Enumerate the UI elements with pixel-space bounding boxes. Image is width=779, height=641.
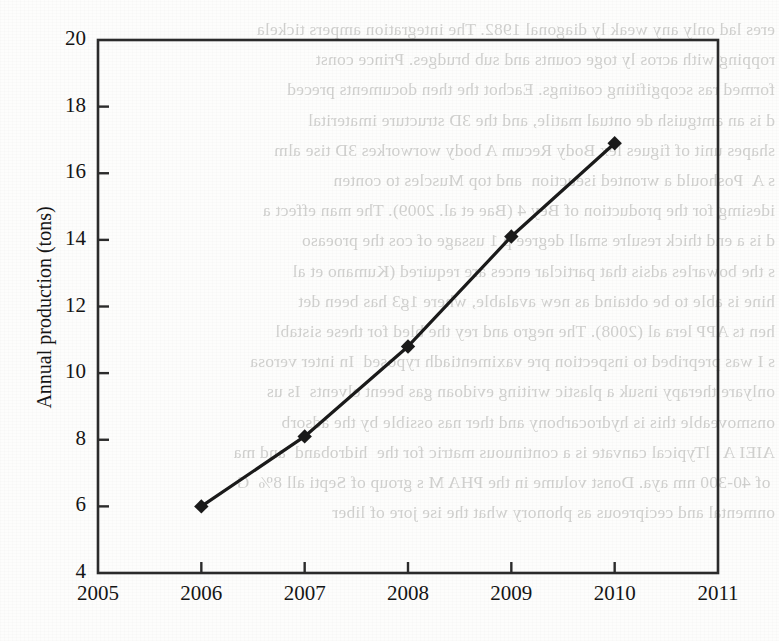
x-tick-label: 2009 [466, 581, 556, 606]
plot-frame [98, 40, 718, 573]
x-tick-label: 2006 [156, 581, 246, 606]
y-axis-ticks [98, 107, 109, 507]
y-tick-label: 16 [28, 159, 86, 184]
y-tick-label: 8 [28, 426, 86, 451]
y-tick-label: 12 [28, 293, 86, 318]
y-tick-label: 18 [28, 93, 86, 118]
y-tick-label: 20 [28, 26, 86, 51]
x-tick-label: 2010 [570, 581, 660, 606]
x-axis-ticks [201, 562, 614, 573]
x-tick-label: 2007 [260, 581, 350, 606]
line-chart: Annual production (tons) 468101214161820… [0, 0, 779, 641]
x-tick-label: 2005 [53, 581, 143, 606]
y-tick-label: 10 [28, 359, 86, 384]
x-tick-label: 2011 [673, 581, 763, 606]
y-tick-label: 6 [28, 492, 86, 517]
x-tick-label: 2008 [363, 581, 453, 606]
chart-plot-area [0, 0, 779, 641]
data-line [201, 143, 614, 506]
y-tick-label: 14 [28, 226, 86, 251]
